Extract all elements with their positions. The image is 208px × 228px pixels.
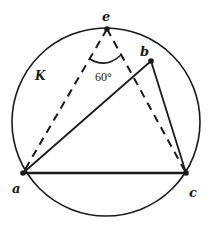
geometry-diagram: e b a c K 60°: [0, 0, 208, 228]
point-b: [148, 58, 154, 64]
dashed-segment-ea: [23, 29, 107, 173]
circle-k: [12, 28, 200, 216]
label-c: c: [189, 185, 197, 200]
point-e: [104, 26, 110, 32]
point-c: [183, 170, 189, 176]
angle-arc: [90, 55, 121, 63]
label-circle-k: K: [34, 69, 46, 83]
label-angle: 60°: [95, 70, 112, 84]
label-a: a: [12, 181, 20, 196]
label-e: e: [102, 9, 110, 24]
point-a: [20, 170, 26, 176]
label-b: b: [140, 44, 149, 59]
